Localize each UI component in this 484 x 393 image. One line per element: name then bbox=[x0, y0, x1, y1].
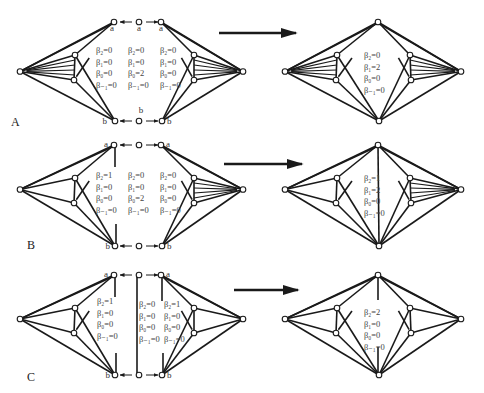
betti-number-label: β₀=0 bbox=[364, 73, 380, 83]
edge bbox=[285, 190, 336, 204]
left-outer-vertex bbox=[17, 316, 23, 322]
right-inner-vertex bbox=[407, 175, 413, 181]
vertex-label-top-right: a bbox=[159, 23, 163, 33]
vertex-b bbox=[112, 118, 118, 124]
betti-number-label: β₋₁=0 bbox=[139, 334, 160, 344]
vertex-label-bottom-left: b bbox=[106, 370, 111, 380]
vertex-mid bbox=[136, 243, 142, 249]
vertex-a bbox=[111, 142, 117, 148]
betti-number-label: β₀=0 bbox=[96, 193, 112, 203]
betti-number-label: β₋₁=0 bbox=[164, 334, 185, 344]
vertex-mid bbox=[136, 118, 142, 124]
edge bbox=[411, 319, 461, 333]
left-inner-vertex bbox=[334, 52, 340, 58]
edge bbox=[285, 178, 337, 190]
betti-number-label: β₀=0 bbox=[164, 322, 180, 332]
edge bbox=[336, 55, 337, 80]
edge bbox=[378, 275, 410, 308]
betti-number-label: β₁=0 bbox=[96, 57, 112, 67]
right-inner-vertex bbox=[191, 52, 197, 58]
top-vertex bbox=[375, 19, 381, 25]
row-b: aabbβ₂=1β₁=0β₀=0β₋₁=0β₂=0β₁=0β₀=2β₋₁=0β₂… bbox=[17, 139, 464, 252]
bottom-vertex bbox=[376, 372, 382, 378]
top-vertex bbox=[375, 272, 381, 278]
left-outer-vertex bbox=[282, 316, 288, 322]
betti-number-label: β₁=0 bbox=[364, 319, 380, 329]
left-outer-vertex bbox=[282, 69, 288, 75]
left-inner-vertex bbox=[333, 330, 339, 336]
betti-block-middle: β₂=0β₁=0β₀=2β₋₁=0 bbox=[128, 170, 149, 215]
row-a-after: β₂=0β₁=2β₀=0β₋₁=0 bbox=[282, 19, 464, 124]
panel-label-b: B bbox=[27, 238, 35, 252]
right-inner-vertex bbox=[407, 305, 413, 311]
vertex-label-bottom-right: b bbox=[167, 370, 172, 380]
edge bbox=[194, 319, 243, 333]
edge bbox=[285, 308, 337, 319]
vertex-mid bbox=[136, 272, 142, 278]
edge bbox=[74, 308, 75, 333]
betti-block-right: β₂=1β₁=0β₀=0β₋₁=0 bbox=[164, 299, 185, 344]
betti-number-label: β₀=0 bbox=[364, 196, 380, 206]
gluing-diagram-figure: aabbabβ₂=0β₁=0β₀=0β₋₁=0β₂=0β₁=0β₀=2β₋₁=0… bbox=[0, 0, 484, 393]
betti-block-result: β₂=0β₁=2β₀=0β₋₁=0 bbox=[364, 50, 385, 95]
right-inner-vertex bbox=[191, 77, 197, 83]
betti-number-label: β₂=0 bbox=[364, 50, 380, 60]
right-inner-vertex bbox=[191, 200, 197, 206]
left-outer-vertex bbox=[17, 69, 23, 75]
betti-block-left: β₂=1β₁=0β₀=0β₋₁=0 bbox=[97, 296, 118, 341]
edge bbox=[285, 147, 376, 190]
betti-number-label: β₀=0 bbox=[160, 68, 176, 78]
edge bbox=[285, 24, 376, 72]
right-outer-vertex bbox=[458, 187, 464, 193]
betti-number-label: β₁=0 bbox=[97, 308, 113, 318]
left-outer-vertex bbox=[282, 187, 288, 193]
betti-number-label: β₀=0 bbox=[96, 68, 112, 78]
right-wing bbox=[378, 22, 464, 121]
row-a-before: aabbabβ₂=0β₁=0β₀=0β₋₁=0β₂=0β₁=0β₀=2β₋₁=0… bbox=[17, 19, 246, 126]
edge bbox=[410, 308, 461, 319]
right-wing bbox=[378, 275, 464, 375]
betti-number-label: β₂=1 bbox=[96, 170, 112, 180]
vertex-b bbox=[159, 372, 165, 378]
betti-number-label: β₂=0 bbox=[139, 299, 155, 309]
right-outer-vertex bbox=[458, 316, 464, 322]
betti-block-result: β₂=1β₁=2β₀=0β₋₁=0 bbox=[364, 173, 385, 218]
vertex-label-top-right: a bbox=[166, 269, 170, 279]
left-inner-vertex bbox=[71, 200, 77, 206]
betti-block-left: β₂=1β₁=0β₀=0β₋₁=0 bbox=[96, 170, 117, 215]
right-inner-vertex bbox=[408, 200, 414, 206]
betti-number-label: β₀=2 bbox=[128, 193, 144, 203]
left-inner-vertex bbox=[333, 77, 339, 83]
vertex-label-bottom-right: b bbox=[167, 116, 172, 126]
right-inner-vertex bbox=[408, 330, 414, 336]
edge bbox=[285, 319, 336, 333]
betti-number-label: β₁=0 bbox=[128, 182, 144, 192]
betti-number-label: β₁=2 bbox=[364, 185, 380, 195]
vertex-label-bottom-mid: b bbox=[139, 105, 144, 115]
vertex-b bbox=[159, 243, 165, 249]
right-outer-vertex bbox=[240, 187, 246, 193]
betti-number-label: β₂=1 bbox=[97, 296, 113, 306]
betti-number-label: β₁=0 bbox=[96, 182, 112, 192]
betti-number-label: β₁=0 bbox=[128, 57, 144, 67]
betti-number-label: β₁=2 bbox=[364, 62, 380, 72]
betti-block-middle: β₂=0β₁=0β₀=0β₋₁=0 bbox=[139, 299, 160, 344]
vertex-a bbox=[111, 272, 117, 278]
row-b-before: aabbβ₂=1β₁=0β₀=0β₋₁=0β₂=0β₁=0β₀=2β₋₁=0β₂… bbox=[17, 139, 246, 251]
edge bbox=[74, 55, 75, 80]
betti-block-middle: β₂=0β₁=0β₀=2β₋₁=0 bbox=[128, 45, 149, 90]
right-outer-vertex bbox=[458, 69, 464, 75]
vertex-label-top-left: a bbox=[110, 23, 114, 33]
left-inner-vertex bbox=[72, 175, 78, 181]
left-inner-vertex bbox=[333, 200, 339, 206]
edge bbox=[378, 145, 410, 178]
vertex-label-top-left: a bbox=[104, 139, 108, 149]
row-c-after: β₂=2β₁=0β₀=0β₋₁=0 bbox=[282, 272, 464, 378]
vertex-a bbox=[158, 142, 164, 148]
betti-number-label: β₁=0 bbox=[160, 57, 176, 67]
betti-number-label: β₋₁=0 bbox=[128, 80, 149, 90]
vertex-b bbox=[159, 118, 165, 124]
right-inner-vertex bbox=[191, 305, 197, 311]
row-c-before: aabbβ₂=1β₁=0β₀=0β₋₁=0β₂=0β₁=0β₀=0β₋₁=0β₂… bbox=[17, 269, 246, 380]
panel-label-c: C bbox=[27, 370, 35, 384]
